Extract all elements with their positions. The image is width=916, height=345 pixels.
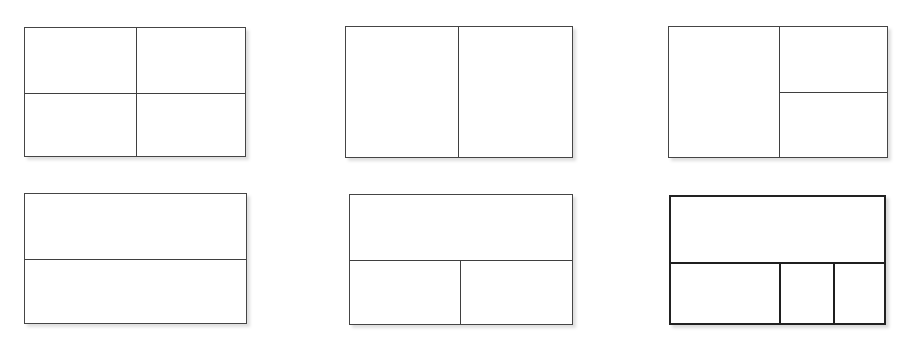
region-right-bottom <box>780 93 887 157</box>
figure-halved-horizontally-rectangle <box>24 193 247 324</box>
region-top-full <box>671 197 884 260</box>
region-bottom-left <box>350 261 460 324</box>
region-top-left <box>25 28 136 93</box>
region-top <box>25 194 246 259</box>
region-bottom-middle <box>779 262 831 323</box>
region-top-right <box>137 28 245 93</box>
figure-top-half-bottom-thirds-rectangle <box>669 195 886 325</box>
region-bottom-right <box>833 262 884 323</box>
figure-quartered-rectangle <box>24 27 246 157</box>
region-top-full <box>350 195 572 260</box>
region-bottom <box>25 260 246 323</box>
figure-halved-vertically-rectangle <box>345 26 573 158</box>
figure-top-half-bottom-quarters-rectangle <box>349 194 573 325</box>
region-bottom-left <box>25 94 136 158</box>
diagram-canvas <box>0 0 916 345</box>
region-bottom-left <box>671 262 777 323</box>
region-right <box>459 27 572 157</box>
figure-left-half-right-quarters-rectangle <box>668 26 888 158</box>
region-bottom-right <box>461 261 572 324</box>
region-left-full <box>669 27 779 157</box>
region-left <box>346 27 458 157</box>
region-right-top <box>780 27 887 92</box>
region-bottom-right <box>137 94 245 158</box>
